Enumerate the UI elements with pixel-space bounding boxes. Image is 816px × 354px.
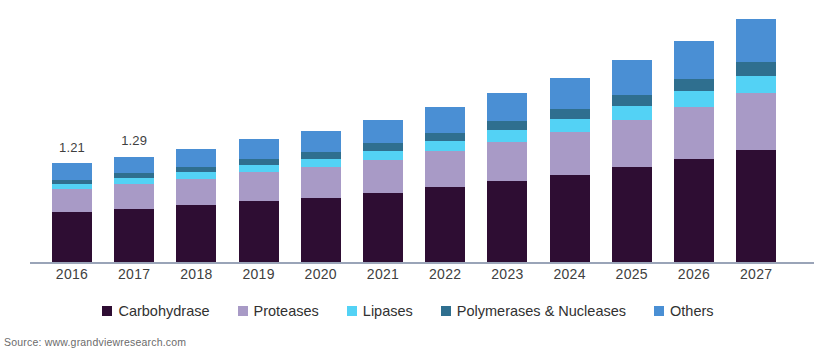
bar-segment-2018-carbohydrase bbox=[176, 205, 216, 263]
legend-swatch-icon bbox=[441, 306, 451, 316]
bar-segment-2024-others bbox=[550, 78, 590, 109]
bar-segment-2027-polymerases-nucleases bbox=[736, 62, 776, 76]
legend-swatch-icon bbox=[238, 306, 248, 316]
bar-segment-2026-proteases bbox=[674, 107, 714, 159]
x-tick-label-2021: 2021 bbox=[363, 266, 403, 282]
bar-2018[interactable] bbox=[176, 149, 216, 263]
bar-segment-2024-carbohydrase bbox=[550, 175, 590, 263]
bar-segment-2027-others bbox=[736, 19, 776, 61]
bar-segment-2021-carbohydrase bbox=[363, 193, 403, 263]
bar-segment-2027-proteases bbox=[736, 93, 776, 150]
bar-segment-2024-proteases bbox=[550, 132, 590, 175]
bar-segment-2017-carbohydrase bbox=[114, 209, 154, 264]
bar-segment-2023-carbohydrase bbox=[487, 181, 527, 263]
bar-segment-2021-proteases bbox=[363, 160, 403, 193]
bar-segment-2021-lipases bbox=[363, 151, 403, 160]
bar-2023[interactable] bbox=[487, 93, 527, 263]
bar-segment-2021-others bbox=[363, 120, 403, 143]
x-axis-tick-labels: 2016201720182019202020212022202320242025… bbox=[30, 266, 816, 288]
x-axis-line bbox=[30, 262, 814, 264]
bar-value-label-2017: 1.29 bbox=[121, 133, 147, 148]
x-tick-label-2020: 2020 bbox=[301, 266, 341, 282]
bar-segment-2025-lipases bbox=[612, 106, 652, 120]
bar-2016[interactable] bbox=[52, 163, 92, 263]
bar-2017[interactable] bbox=[114, 157, 154, 264]
legend-label: Lipases bbox=[363, 303, 413, 319]
bar-segment-2026-others bbox=[674, 41, 714, 79]
legend-item-proteases[interactable]: Proteases bbox=[238, 303, 319, 319]
x-tick-label-2016: 2016 bbox=[52, 266, 92, 282]
legend-label: Carbohydrase bbox=[118, 303, 209, 319]
bar-segment-2025-carbohydrase bbox=[612, 167, 652, 263]
bar-segment-2016-others bbox=[52, 163, 92, 180]
bar-segment-2020-proteases bbox=[301, 167, 341, 198]
bar-segment-2018-lipases bbox=[176, 172, 216, 179]
legend-swatch-icon bbox=[102, 306, 112, 316]
bar-segment-2021-polymerases-nucleases bbox=[363, 143, 403, 150]
bar-2027[interactable] bbox=[736, 19, 776, 263]
bar-segment-2022-others bbox=[425, 107, 465, 133]
bar-2024[interactable] bbox=[550, 78, 590, 263]
bar-segment-2026-lipases bbox=[674, 91, 714, 107]
chart-legend: CarbohydraseProteasesLipasesPolymerases … bbox=[0, 303, 816, 319]
x-tick-label-2027: 2027 bbox=[736, 266, 776, 282]
bar-segment-2016-proteases bbox=[52, 189, 92, 212]
bar-segment-2027-lipases bbox=[736, 76, 776, 93]
bar-segment-2017-proteases bbox=[114, 184, 154, 209]
legend-item-carbohydrase[interactable]: Carbohydrase bbox=[102, 303, 209, 319]
source-note: Source: www.grandviewresearch.com bbox=[4, 336, 186, 348]
bar-segment-2025-proteases bbox=[612, 120, 652, 167]
bar-2025[interactable] bbox=[612, 60, 652, 263]
plot-area: 1.211.29 bbox=[30, 0, 816, 263]
bar-segment-2019-proteases bbox=[239, 172, 279, 201]
bar-segment-2023-lipases bbox=[487, 130, 527, 142]
bar-segment-2019-others bbox=[239, 139, 279, 159]
stacked-bar-chart: 1.211.29 2016201720182019202020212022202… bbox=[0, 0, 816, 354]
bar-segment-2017-others bbox=[114, 157, 154, 174]
bar-segment-2023-polymerases-nucleases bbox=[487, 121, 527, 130]
bar-segment-2020-others bbox=[301, 131, 341, 152]
bar-2022[interactable] bbox=[425, 107, 465, 263]
bar-2026[interactable] bbox=[674, 41, 714, 263]
bar-segment-2022-proteases bbox=[425, 151, 465, 187]
x-tick-label-2018: 2018 bbox=[176, 266, 216, 282]
bar-segment-2024-polymerases-nucleases bbox=[550, 109, 590, 119]
x-tick-label-2025: 2025 bbox=[612, 266, 652, 282]
legend-item-others[interactable]: Others bbox=[654, 303, 714, 319]
bar-segment-2020-carbohydrase bbox=[301, 198, 341, 263]
x-tick-label-2026: 2026 bbox=[674, 266, 714, 282]
bar-segment-2025-polymerases-nucleases bbox=[612, 95, 652, 107]
bar-2021[interactable] bbox=[363, 120, 403, 263]
bar-segment-2018-others bbox=[176, 149, 216, 167]
bar-segment-2023-proteases bbox=[487, 142, 527, 182]
bar-segment-2022-polymerases-nucleases bbox=[425, 133, 465, 141]
bar-2019[interactable] bbox=[239, 139, 279, 263]
bar-segment-2026-carbohydrase bbox=[674, 159, 714, 263]
x-tick-label-2022: 2022 bbox=[425, 266, 465, 282]
bar-segment-2024-lipases bbox=[550, 119, 590, 131]
legend-item-lipases[interactable]: Lipases bbox=[347, 303, 413, 319]
bar-segment-2020-polymerases-nucleases bbox=[301, 152, 341, 159]
x-tick-label-2024: 2024 bbox=[550, 266, 590, 282]
bar-segment-2018-proteases bbox=[176, 179, 216, 205]
bar-segment-2019-lipases bbox=[239, 165, 279, 172]
bar-segment-2025-others bbox=[612, 60, 652, 95]
bar-segment-2020-lipases bbox=[301, 159, 341, 167]
legend-label: Others bbox=[670, 303, 714, 319]
x-tick-label-2019: 2019 bbox=[239, 266, 279, 282]
x-tick-label-2017: 2017 bbox=[114, 266, 154, 282]
bar-segment-2016-carbohydrase bbox=[52, 212, 92, 263]
legend-swatch-icon bbox=[654, 306, 664, 316]
legend-label: Polymerases & Nucleases bbox=[457, 303, 626, 319]
bar-segment-2027-carbohydrase bbox=[736, 150, 776, 263]
bar-segment-2022-carbohydrase bbox=[425, 187, 465, 263]
x-tick-label-2023: 2023 bbox=[487, 266, 527, 282]
legend-item-polymerases-nucleases[interactable]: Polymerases & Nucleases bbox=[441, 303, 626, 319]
bar-segment-2026-polymerases-nucleases bbox=[674, 79, 714, 91]
bar-segment-2019-carbohydrase bbox=[239, 201, 279, 263]
bar-segment-2022-lipases bbox=[425, 141, 465, 151]
bar-2020[interactable] bbox=[301, 131, 341, 263]
legend-label: Proteases bbox=[254, 303, 319, 319]
legend-swatch-icon bbox=[347, 306, 357, 316]
bar-segment-2023-others bbox=[487, 93, 527, 121]
